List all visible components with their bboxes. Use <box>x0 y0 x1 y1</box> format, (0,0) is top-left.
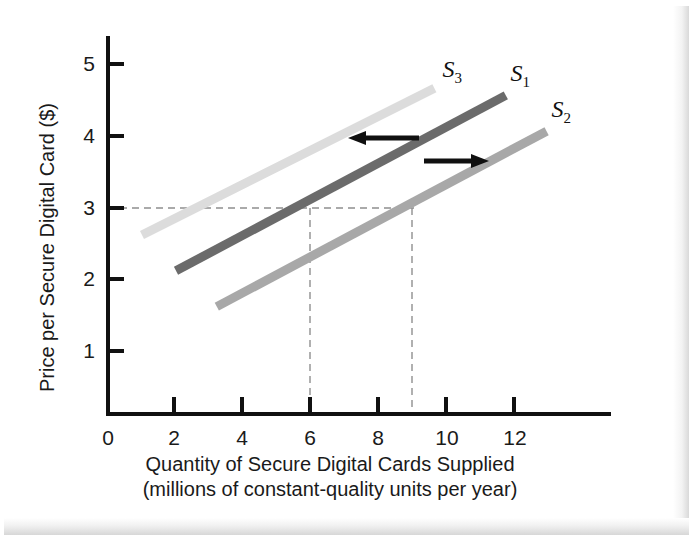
x-axis-title-line-1: Quantity of Secure Digital Cards Supplie… <box>0 452 660 477</box>
x-tick-label-4: 4 <box>229 426 255 450</box>
x-tick-label-12: 12 <box>497 426 533 450</box>
figure-frame: 5 4 3 2 1 0 2 4 6 8 10 12 Price per Secu… <box>0 0 689 535</box>
curve-label-s2: S2 <box>551 96 571 127</box>
curve-label-s3-subscript: 3 <box>455 70 463 86</box>
x-axis-title-line-2: (millions of constant-quality units per … <box>0 477 660 502</box>
x-axis-ticks <box>174 397 514 414</box>
curve-label-s1-text: S <box>511 60 523 86</box>
x-tick-label-8: 8 <box>365 426 391 450</box>
x-axis-title: Quantity of Secure Digital Cards Supplie… <box>0 452 660 502</box>
curve-label-s3-text: S <box>443 56 455 82</box>
curve-label-s2-text: S <box>551 96 563 122</box>
curve-label-s1: S1 <box>511 60 531 91</box>
y-axis-ticks <box>108 64 124 351</box>
y-tick-label-2: 2 <box>78 267 100 291</box>
curve-label-s2-subscript: 2 <box>563 110 571 126</box>
supply-curve-chart: 5 4 3 2 1 0 2 4 6 8 10 12 Price per Secu… <box>0 0 689 535</box>
shift-arrows <box>348 131 489 168</box>
x-tick-label-2: 2 <box>161 426 187 450</box>
x-tick-label-10: 10 <box>429 426 465 450</box>
y-tick-label-1: 1 <box>78 339 100 363</box>
y-tick-label-3: 3 <box>78 196 100 220</box>
axis-lines <box>106 36 611 414</box>
y-axis-title: Price per Secure Digital Card ($) <box>36 103 59 392</box>
guide-lines <box>108 208 414 414</box>
curve-label-s3: S3 <box>443 56 463 87</box>
y-tick-label-4: 4 <box>78 124 100 148</box>
x-tick-label-0: 0 <box>95 426 121 450</box>
x-tick-label-6: 6 <box>297 426 323 450</box>
curve-label-s1-subscript: 1 <box>523 74 531 90</box>
y-tick-label-5: 5 <box>78 52 100 76</box>
